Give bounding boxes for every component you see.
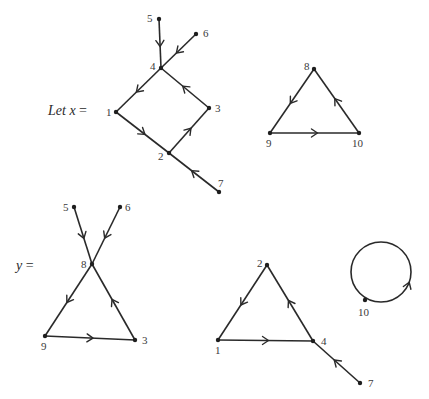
node-5 bbox=[72, 205, 76, 209]
edge-8-to-9 bbox=[45, 264, 92, 336]
node-8 bbox=[312, 67, 316, 71]
node-label-4: 4 bbox=[150, 60, 156, 72]
node-4 bbox=[311, 339, 315, 343]
node-6 bbox=[194, 32, 198, 36]
captions: Let x = y = bbox=[14, 103, 87, 273]
edge-1-to-4 bbox=[218, 340, 313, 341]
node-label-9: 9 bbox=[266, 137, 272, 149]
graph-diagram: Let x = y = 12345678910568932147 10 bbox=[0, 0, 429, 399]
node-7 bbox=[358, 381, 362, 385]
node-2 bbox=[167, 151, 171, 155]
node-9 bbox=[268, 131, 272, 135]
node-9 bbox=[43, 334, 47, 338]
edge-3-to-8 bbox=[92, 264, 135, 340]
node-2 bbox=[265, 263, 269, 267]
edge-6-to-4 bbox=[161, 34, 196, 68]
node-3 bbox=[133, 338, 137, 342]
loop-edge-10 bbox=[351, 242, 411, 302]
node-label-10: 10 bbox=[352, 137, 364, 149]
loop-graph: 10 bbox=[351, 242, 411, 318]
node-label-1: 1 bbox=[215, 344, 221, 356]
caption-x-equals: = bbox=[76, 103, 88, 118]
node-label-5: 5 bbox=[63, 201, 69, 213]
y-graph-a: 56893 bbox=[41, 201, 148, 352]
node-label-3: 3 bbox=[142, 334, 148, 346]
edge-4-to-1 bbox=[116, 68, 161, 112]
edge-3-to-4 bbox=[161, 68, 209, 108]
node-label-5: 5 bbox=[147, 12, 153, 24]
node-label-3: 3 bbox=[215, 102, 221, 114]
x-graph-a: 1234567 bbox=[106, 12, 224, 194]
node-6 bbox=[118, 205, 122, 209]
node-label-7: 7 bbox=[368, 377, 374, 389]
edge-2-to-3 bbox=[169, 108, 209, 153]
node-5 bbox=[157, 17, 161, 21]
node-label-8: 8 bbox=[81, 258, 87, 270]
node-label-2: 2 bbox=[257, 257, 263, 269]
node-1 bbox=[216, 338, 220, 342]
y-graph-b: 2147 bbox=[215, 257, 374, 389]
graphs: 12345678910568932147 bbox=[41, 12, 374, 389]
node-8 bbox=[90, 262, 94, 266]
node-label-6: 6 bbox=[125, 201, 131, 213]
node-label-4: 4 bbox=[321, 335, 327, 347]
caption-y-equals: = bbox=[22, 258, 34, 273]
edge-8-to-9 bbox=[270, 69, 314, 133]
node-1 bbox=[114, 110, 118, 114]
edge-1-to-2 bbox=[116, 112, 169, 153]
caption-y: y = bbox=[14, 258, 34, 273]
edge-10-to-8 bbox=[314, 69, 359, 133]
node-label-7: 7 bbox=[218, 177, 224, 189]
edge-5-to-8 bbox=[74, 207, 92, 264]
node-label-1: 1 bbox=[106, 106, 112, 118]
edge-7-to-2 bbox=[169, 153, 219, 192]
edge-5-to-4 bbox=[159, 19, 161, 68]
caption-x-variable: Let x bbox=[47, 103, 76, 118]
caption-let-x: Let x = bbox=[47, 103, 87, 118]
node-10 bbox=[357, 131, 361, 135]
edge-7-to-4 bbox=[313, 341, 360, 383]
node-4 bbox=[159, 66, 163, 70]
node-10 bbox=[363, 298, 367, 302]
node-label-8: 8 bbox=[304, 60, 310, 72]
edge-6-to-8 bbox=[92, 207, 120, 264]
node-label-10: 10 bbox=[358, 306, 370, 318]
node-7 bbox=[217, 190, 221, 194]
edge-4-to-2 bbox=[267, 265, 313, 341]
node-label-6: 6 bbox=[203, 27, 209, 39]
x-graph-b: 8910 bbox=[266, 60, 364, 149]
node-label-9: 9 bbox=[41, 340, 47, 352]
node-3 bbox=[207, 106, 211, 110]
node-label-2: 2 bbox=[158, 150, 164, 162]
edge-2-to-1 bbox=[218, 265, 267, 340]
